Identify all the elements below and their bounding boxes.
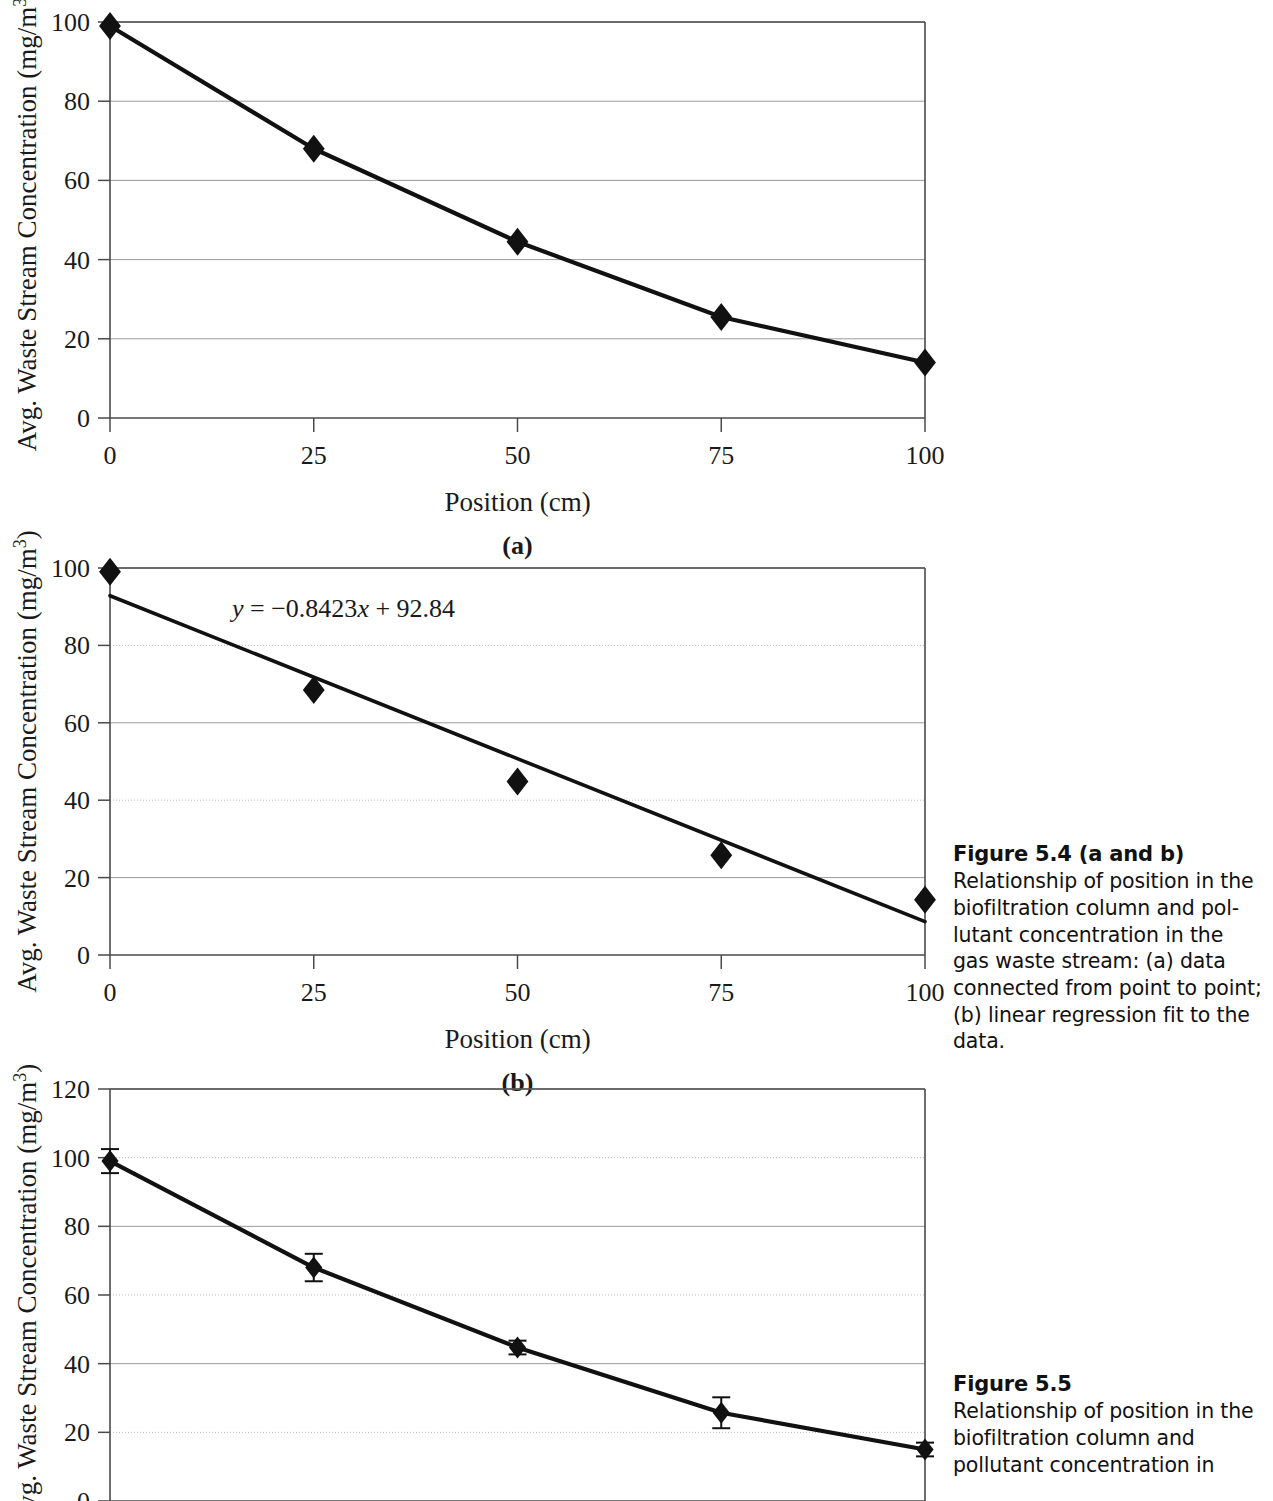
data-point-marker: [99, 12, 121, 40]
figure-5-5-caption: Figure 5.5 Relationship of position in t…: [953, 1371, 1263, 1478]
figure-5-4-caption-title: Figure 5.4 (a and b): [953, 841, 1263, 868]
axes: [98, 22, 925, 432]
y-tick-label: 100: [51, 1144, 90, 1173]
data-point-marker: [99, 558, 121, 586]
gridlines: [110, 22, 925, 339]
x-axis-title: Position (cm): [444, 1024, 590, 1054]
y-tick-label: 60: [64, 1281, 90, 1310]
y-tick-label: 80: [64, 631, 90, 660]
data-point-marker: [305, 1257, 322, 1279]
y-tick-label: 0: [77, 404, 90, 433]
y-tick-label: 40: [64, 1350, 90, 1379]
x-tick-label: 50: [505, 441, 531, 470]
data-series: [101, 1149, 934, 1460]
x-tick-label: 50: [505, 978, 531, 1007]
y-axis-title: Avg. Waste Stream Concentration (mg/m3): [10, 1064, 42, 1501]
data-point-marker: [710, 841, 732, 869]
chart-panel-c: 0204060801001200255075100Avg. Waste Stre…: [0, 1060, 950, 1501]
data-point-marker: [303, 135, 325, 163]
data-point-marker: [713, 1402, 730, 1424]
data-polyline: [110, 1161, 925, 1449]
chart-panel-a: 0204060801000255075100Avg. Waste Stream …: [0, 0, 950, 540]
chart-panel-b: 0204060801000255075100Avg. Waste Stream …: [0, 540, 950, 1060]
y-tick-label: 80: [64, 1212, 90, 1241]
y-tick-label: 120: [51, 1075, 90, 1104]
x-tick-label: 0: [104, 441, 117, 470]
data-series: [99, 558, 936, 922]
x-tick-label: 100: [906, 441, 945, 470]
y-tick-label: 100: [51, 554, 90, 583]
data-point-marker: [914, 349, 936, 377]
axis-labels: 0204060801000255075100Avg. Waste Stream …: [10, 530, 945, 1097]
data-point-marker: [507, 228, 529, 256]
chart-b-svg: 0204060801000255075100Avg. Waste Stream …: [0, 540, 950, 1060]
chart-c-svg: 0204060801001200255075100Avg. Waste Stre…: [0, 1060, 950, 1501]
y-tick-label: 80: [64, 87, 90, 116]
figure-5-5-caption-body: Relationship of position in the biofiltr…: [953, 1398, 1263, 1478]
data-point-marker: [101, 1150, 118, 1172]
figure-5-4-caption-body: Relationship of position in the biofiltr…: [953, 868, 1263, 1054]
y-tick-label: 0: [77, 941, 90, 970]
x-tick-label: 100: [906, 978, 945, 1007]
data-series: [99, 12, 936, 377]
gridlines: [110, 1089, 925, 1432]
y-tick-label: 20: [64, 325, 90, 354]
y-tick-label: 40: [64, 786, 90, 815]
y-axis-title: Avg. Waste Stream Concentration (mg/m3): [10, 530, 42, 993]
x-tick-label: 75: [708, 441, 734, 470]
y-tick-label: 20: [64, 864, 90, 893]
x-tick-label: 25: [301, 978, 327, 1007]
y-tick-label: 60: [64, 166, 90, 195]
figure-5-5-caption-title: Figure 5.5: [953, 1371, 1263, 1398]
y-axis-title: Avg. Waste Stream Concentration (mg/m3): [10, 0, 42, 451]
y-tick-label: 20: [64, 1418, 90, 1447]
figure-page: 0204060801000255075100Avg. Waste Stream …: [0, 0, 1273, 1501]
data-point-marker: [710, 303, 732, 331]
x-tick-label: 0: [104, 978, 117, 1007]
data-point-marker: [914, 886, 936, 914]
x-tick-label: 75: [708, 978, 734, 1007]
x-tick-label: 25: [301, 441, 327, 470]
x-axis-title: Position (cm): [444, 487, 590, 517]
y-tick-label: 100: [51, 8, 90, 37]
data-polyline: [110, 26, 925, 363]
axes: [98, 568, 925, 969]
chart-a-svg: 0204060801000255075100Avg. Waste Stream …: [0, 0, 950, 540]
axis-labels: 0204060801001200255075100Avg. Waste Stre…: [10, 1064, 945, 1501]
figure-5-4-caption: Figure 5.4 (a and b) Relationship of pos…: [953, 841, 1263, 1055]
regression-fit-line: [110, 596, 925, 922]
data-point-marker: [507, 768, 529, 796]
axis-labels: 0204060801000255075100Avg. Waste Stream …: [10, 0, 945, 560]
y-tick-label: 0: [77, 1487, 90, 1501]
regression-equation: y = −0.8423x + 92.84: [229, 594, 455, 623]
y-tick-label: 60: [64, 709, 90, 738]
y-tick-label: 40: [64, 246, 90, 275]
